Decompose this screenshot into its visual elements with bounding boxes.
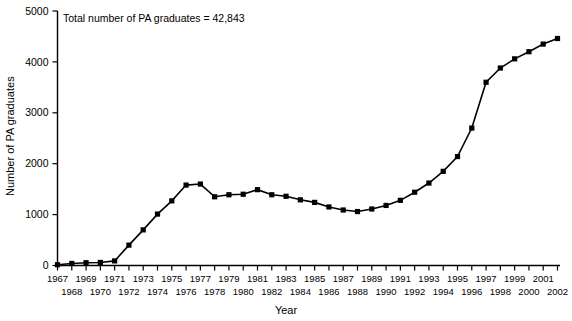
x-tick-label: 1989 <box>361 273 382 284</box>
x-tick-label: 1992 <box>404 286 425 297</box>
data-point-marker <box>98 260 103 265</box>
data-point-marker <box>198 181 203 186</box>
data-marker-group <box>55 36 560 267</box>
data-point-marker <box>183 182 188 187</box>
x-tick-label: 1995 <box>447 273 468 284</box>
x-tick-label-group: 1967196819691970197119721973197419751976… <box>47 273 568 297</box>
x-tick-label: 1979 <box>218 273 239 284</box>
data-point-marker <box>112 258 117 263</box>
data-point-marker <box>55 262 60 267</box>
x-tick-label: 1977 <box>190 273 211 284</box>
x-tick-label: 2001 <box>533 273 554 284</box>
x-tick-label: 1997 <box>476 273 497 284</box>
data-point-marker <box>212 194 217 199</box>
x-axis-title: Year <box>275 304 298 316</box>
x-tick-label: 1973 <box>133 273 154 284</box>
data-point-marker <box>241 192 246 197</box>
data-line-pa-graduates <box>58 38 558 264</box>
x-tick-label: 1978 <box>204 286 225 297</box>
x-tick-label: 1994 <box>433 286 454 297</box>
x-tick-label: 1969 <box>76 273 97 284</box>
x-tick-label: 2000 <box>518 286 539 297</box>
x-tick-label: 1985 <box>304 273 325 284</box>
data-point-marker <box>169 198 174 203</box>
x-tick-label: 1993 <box>418 273 439 284</box>
data-point-marker <box>69 261 74 266</box>
y-tick-label: 2000 <box>25 157 49 169</box>
x-tick-label: 1974 <box>147 286 168 297</box>
data-point-marker <box>298 197 303 202</box>
chart-figure: Number of PA graduates Total number of P… <box>0 0 572 321</box>
data-point-marker <box>383 203 388 208</box>
y-tick-label: 3000 <box>25 106 49 118</box>
data-point-marker <box>412 190 417 195</box>
x-tick-label: 1986 <box>318 286 339 297</box>
data-point-marker <box>312 200 317 205</box>
x-tick-label: 1983 <box>276 273 297 284</box>
x-tick-label: 1968 <box>61 286 82 297</box>
data-point-marker <box>226 192 231 197</box>
y-tick-label: 1000 <box>25 208 49 220</box>
x-tick-label: 1988 <box>347 286 368 297</box>
x-tick-label: 1975 <box>161 273 182 284</box>
data-point-marker <box>83 260 88 265</box>
data-point-marker <box>126 243 131 248</box>
data-point-marker <box>326 204 331 209</box>
x-tick-label: 1999 <box>504 273 525 284</box>
x-tick-label: 1981 <box>247 273 268 284</box>
chart-annotation: Total number of PA graduates = 42,843 <box>63 12 245 24</box>
x-tick-label: 1967 <box>47 273 68 284</box>
data-point-marker <box>283 194 288 199</box>
data-point-marker <box>441 169 446 174</box>
x-tick-label: 2002 <box>547 286 568 297</box>
x-tick-label: 1996 <box>461 286 482 297</box>
data-point-marker <box>141 227 146 232</box>
data-point-marker <box>155 211 160 216</box>
data-point-marker <box>341 207 346 212</box>
x-tick-label: 1984 <box>290 286 311 297</box>
y-tick-label: 0 <box>43 259 49 271</box>
line-chart: Number of PA graduates Total number of P… <box>0 0 572 321</box>
data-point-marker <box>455 154 460 159</box>
data-point-marker <box>426 180 431 185</box>
x-tick-label: 1991 <box>390 273 411 284</box>
y-axis-title: Number of PA graduates <box>4 76 16 196</box>
data-point-marker <box>269 192 274 197</box>
x-tick-label: 1990 <box>376 286 397 297</box>
x-tick-label: 1982 <box>261 286 282 297</box>
data-point-marker <box>526 49 531 54</box>
data-point-marker <box>498 65 503 70</box>
x-tick-group <box>58 266 558 271</box>
y-tick-group: 010002000300040005000 <box>25 5 57 272</box>
data-point-marker <box>355 209 360 214</box>
data-point-marker <box>369 206 374 211</box>
data-point-marker <box>483 80 488 85</box>
data-point-marker <box>469 125 474 130</box>
x-tick-label: 1971 <box>104 273 125 284</box>
x-tick-label: 1970 <box>90 286 111 297</box>
data-point-marker <box>541 41 546 46</box>
data-point-marker <box>555 36 560 41</box>
y-tick-label: 5000 <box>25 5 49 17</box>
x-tick-label: 1980 <box>233 286 254 297</box>
y-tick-label: 4000 <box>25 56 49 68</box>
x-tick-label: 1998 <box>490 286 511 297</box>
x-tick-label: 1987 <box>333 273 354 284</box>
data-point-marker <box>512 56 517 61</box>
x-tick-label: 1976 <box>176 286 197 297</box>
x-tick-label: 1972 <box>118 286 139 297</box>
data-point-marker <box>255 187 260 192</box>
data-point-marker <box>398 198 403 203</box>
